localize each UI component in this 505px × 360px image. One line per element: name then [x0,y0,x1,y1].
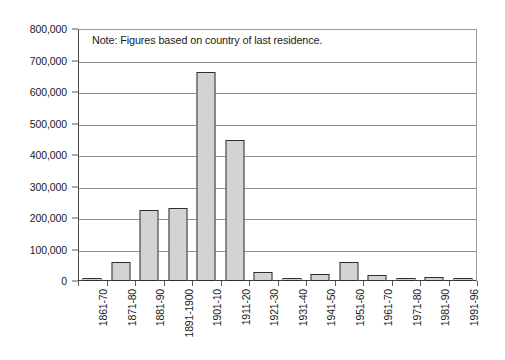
x-axis-tick [477,281,478,286]
y-axis-tick-label: 0 [61,275,67,287]
bar[interactable] [225,140,244,281]
bar-chart: 800,000700,000600,000500,000400,000300,0… [0,0,505,360]
x-axis-tick [335,281,336,286]
bar[interactable] [140,210,159,281]
x-axis-tick [78,281,79,286]
bar-slot [78,29,107,281]
x-axis-tick-label: 1981-90 [439,289,451,326]
bar-slot [278,29,307,281]
y-axis-tick-label: 300,000 [30,181,67,193]
y-axis-tick-label: 200,000 [30,212,67,224]
x-axis-tick [192,281,193,286]
x-axis-tick-label: 1991-96 [468,289,480,326]
bar-slot [306,29,335,281]
bar-slot [335,29,364,281]
x-axis-tick [249,281,250,286]
x-axis-tick-label: 1971-80 [411,289,423,326]
bar-slot [221,29,250,281]
bar-slot [363,29,392,281]
x-axis-tick [107,281,108,286]
bar-slot [192,29,221,281]
x-axis-tick-label: 1911-20 [240,289,252,325]
x-axis-tick-label: 1921-30 [268,289,280,326]
bar[interactable] [168,208,187,281]
x-axis-tick-label: 1881-90 [154,289,166,326]
x-axis-tick [392,281,393,286]
x-axis-tick-label: 1861-70 [97,289,109,326]
x-axis-tick-label: 1961-70 [382,289,394,326]
y-axis-tick-label: 600,000 [30,86,67,98]
x-axis-tick-label: 1871-80 [126,289,138,326]
bar[interactable] [111,262,130,281]
x-axis-tick-label: 1941-50 [325,289,337,326]
x-axis-tick-label: 1901-10 [211,289,223,326]
x-axis-tick [221,281,222,286]
bar-series [78,29,477,281]
x-axis-tick [135,281,136,286]
y-axis-tick-label: 700,000 [30,55,67,67]
x-axis-tick [420,281,421,286]
bar-slot [164,29,193,281]
bar-slot [249,29,278,281]
bar[interactable] [339,262,358,281]
bar-slot [107,29,136,281]
bar[interactable] [254,272,273,281]
bar-slot [449,29,478,281]
x-axis-tick [278,281,279,286]
x-axis-tick [363,281,364,286]
bar-slot [135,29,164,281]
x-axis: 1861-701871-801881-901891-19001901-10191… [78,281,477,360]
y-axis-tick-label: 400,000 [30,149,67,161]
x-axis-tick [306,281,307,286]
bar-slot [392,29,421,281]
y-axis-tick-label: 800,000 [30,23,67,35]
bar[interactable] [197,72,216,281]
x-axis-tick-label: 1951-60 [354,289,366,326]
x-axis-tick-label: 1931-40 [297,289,309,326]
x-axis-tick [164,281,165,286]
y-axis-tick-label: 500,000 [30,118,67,130]
x-axis-tick [449,281,450,286]
bar[interactable] [311,274,330,281]
y-axis-tick-label: 100,000 [30,244,67,256]
y-axis: 800,000700,000600,000500,000400,000300,0… [0,0,78,360]
bar-slot [420,29,449,281]
x-axis-tick-label: 1891-1900 [183,289,195,337]
